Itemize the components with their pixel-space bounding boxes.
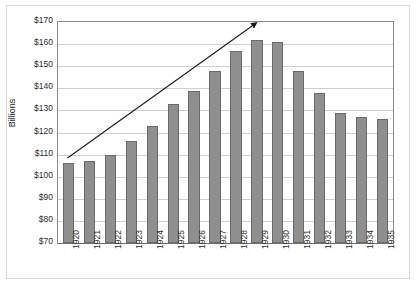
bar-1923	[126, 141, 137, 243]
x-axis-tick-label: 1926	[197, 235, 207, 249]
x-axis-tick-label: 1933	[344, 235, 354, 249]
x-axis-tick-label: 1934	[365, 235, 375, 249]
x-axis-tick-label: 1928	[239, 235, 249, 249]
bar-1926	[188, 91, 199, 243]
x-axis-tick-label: 1924	[155, 235, 165, 249]
bar-1933	[335, 113, 346, 243]
bar-chart-figure: $170$160$150$140$130$120$110$100$90$80$7…	[0, 0, 417, 287]
x-axis-tick-label: 1923	[134, 235, 144, 249]
y-axis-tick-label: $130	[34, 104, 53, 113]
x-axis-tick-label: 1932	[323, 235, 333, 249]
y-axis-tick-label: $80	[39, 215, 53, 224]
y-axis-tick-label: $110	[35, 149, 53, 158]
x-axis-tick-label: 1920	[71, 235, 81, 249]
y-axis-tick-label: $100	[34, 171, 53, 180]
bar-1928	[230, 51, 241, 243]
y-axis-tick-label: $170	[34, 16, 53, 25]
y-axis-tick-label: $150	[34, 60, 53, 69]
plot-area	[57, 21, 394, 244]
bars-layer	[58, 22, 393, 243]
bar-1925	[168, 104, 179, 243]
bar-1929	[251, 40, 262, 243]
y-axis-tick-label: $140	[34, 82, 53, 91]
x-axis-tick-label: 1921	[92, 235, 102, 249]
x-axis-tick-label: 1931	[302, 235, 312, 249]
bar-1931	[293, 71, 304, 243]
bar-1924	[147, 126, 158, 243]
y-axis-tick-labels: $170$160$150$140$130$120$110$100$90$80$7…	[0, 0, 53, 287]
x-axis-tick-label: 1925	[176, 235, 186, 249]
bar-1927	[209, 71, 220, 243]
y-axis-tick-label: $90	[39, 193, 53, 202]
y-axis-tick-label: $70	[39, 237, 53, 246]
bar-1932	[314, 93, 325, 243]
y-axis-tick-label: $120	[34, 127, 53, 136]
bar-1934	[356, 117, 367, 243]
x-axis-tick-label: 1935	[386, 235, 396, 249]
bar-1935	[377, 119, 388, 243]
x-axis-tick-label: 1929	[260, 235, 270, 249]
y-axis-title: Billions	[7, 83, 17, 143]
x-axis-tick-label: 1927	[218, 235, 228, 249]
y-axis-tick-label: $160	[34, 38, 53, 47]
x-axis-tick-label: 1922	[113, 235, 123, 249]
bar-1930	[272, 42, 283, 243]
x-axis-tick-label: 1930	[281, 235, 291, 249]
